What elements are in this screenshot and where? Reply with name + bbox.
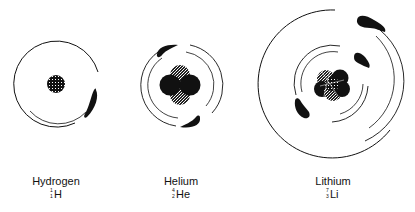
lithium-name-label: Lithium xyxy=(293,175,373,187)
helium-electron-bottom xyxy=(180,116,200,128)
hydrogen-atom xyxy=(14,41,98,127)
lithium-isotope-label: 73Li xyxy=(326,188,366,200)
hydrogen-orbit-inner-trail xyxy=(30,111,86,124)
lithium-electron-inner-top xyxy=(354,53,370,68)
lithium-orbit-outer-3 xyxy=(369,36,394,128)
lithium-atomic-number: 3 xyxy=(326,194,329,199)
hydrogen-symbol: H xyxy=(54,188,62,200)
helium-symbol: He xyxy=(176,188,190,200)
hydrogen-electron xyxy=(84,89,97,118)
hydrogen-isotope-label: 11H xyxy=(50,188,90,200)
lithium-electron-inner-left xyxy=(295,98,310,118)
helium-name-label: Helium xyxy=(141,175,221,187)
lithium-atom xyxy=(258,10,404,158)
helium-atomic-number: 2 xyxy=(172,194,175,199)
hydrogen-nucleus xyxy=(47,75,65,93)
lithium-electron-outer xyxy=(357,16,385,32)
hydrogen-atomic-number: 1 xyxy=(50,194,53,199)
helium-neutron-left xyxy=(160,75,181,96)
helium-atom xyxy=(141,45,223,128)
hydrogen-name-label: Hydrogen xyxy=(16,175,96,187)
helium-electron-top xyxy=(157,45,178,57)
helium-neutron-right xyxy=(180,75,201,96)
lithium-nucleus xyxy=(314,70,350,102)
lithium-symbol: Li xyxy=(330,188,339,200)
helium-isotope-label: 42He xyxy=(172,188,212,200)
